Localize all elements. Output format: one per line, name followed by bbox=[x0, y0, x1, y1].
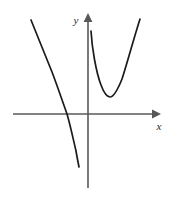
x-axis-label: x bbox=[156, 120, 162, 132]
x-axis-arrow-icon bbox=[152, 110, 161, 119]
y-axis-arrow-icon bbox=[84, 13, 93, 22]
x-axis bbox=[13, 110, 161, 119]
curve-right-branch bbox=[91, 19, 140, 97]
function-graph-svg: y x bbox=[0, 0, 173, 197]
graph-figure: y x bbox=[0, 0, 173, 197]
curve-left-branch bbox=[31, 20, 79, 167]
y-axis-label: y bbox=[73, 14, 79, 26]
